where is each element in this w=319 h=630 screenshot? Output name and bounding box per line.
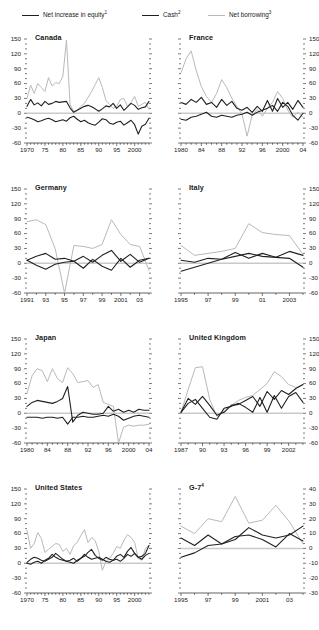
y-axis-label: 90 [309, 216, 319, 222]
x-axis-label: 1987 [170, 447, 192, 453]
x-axis-label: 2003 [278, 297, 300, 303]
y-axis-label: -30 [309, 425, 319, 431]
y-axis-label: 120 [0, 201, 21, 207]
y-axis-label: 30 [309, 245, 319, 251]
legend-footnote-marker: 3 [269, 10, 272, 15]
series-line-cash [27, 258, 149, 270]
x-axis-label: 2000 [272, 147, 294, 153]
y-axis-label: 60 [0, 530, 21, 536]
series-line-net-borrowing [181, 367, 303, 417]
chart-panel-italy: Italy-60-30030609012015019959799012003 [160, 183, 319, 323]
y-axis-label: 120 [309, 351, 319, 357]
y-axis-label: 150 [309, 186, 319, 192]
y-axis-label: 150 [0, 36, 21, 42]
series-line-net-increase-in-equity [27, 250, 149, 262]
y-axis-label: 30 [309, 501, 319, 507]
y-axis-label: 20 [309, 516, 319, 522]
x-axis-label: 04 [292, 147, 314, 153]
x-axis-label: 01 [251, 297, 273, 303]
legend-footnote-marker: 1 [104, 10, 107, 15]
x-axis-label: 93 [213, 447, 235, 453]
chart-panel-g-7: G-74-30-20-1001020304019959799200103 [160, 483, 319, 623]
y-axis-label: -60 [0, 440, 21, 446]
x-axis-label: 2002 [278, 447, 300, 453]
series-line-cash [181, 534, 303, 558]
legend-label: Net borrowing [229, 11, 269, 18]
plot-area [27, 189, 149, 293]
x-axis-label: 1980 [170, 147, 192, 153]
y-axis-label: 60 [309, 80, 319, 86]
x-axis-label: 84 [36, 447, 58, 453]
x-axis-label: 97 [197, 297, 219, 303]
legend-swatch-icon [208, 15, 225, 16]
y-axis-label: -30 [0, 275, 21, 281]
x-axis-label: 99 [256, 447, 278, 453]
x-axis-label: 96 [97, 447, 119, 453]
x-axis-label: 03 [278, 597, 300, 603]
x-axis-label: 88 [211, 147, 233, 153]
series-line-net-increase-in-equity [181, 97, 303, 112]
series-line-cash [27, 116, 149, 134]
y-axis-label: 150 [0, 336, 21, 342]
plot-area [181, 339, 303, 443]
series-line-cash [181, 392, 303, 419]
y-axis-label: 90 [0, 66, 21, 72]
y-axis-label: 0 [309, 410, 319, 416]
y-axis-label: -30 [0, 125, 21, 131]
y-axis-label: 0 [309, 260, 319, 266]
series-line-net-borrowing [181, 51, 303, 136]
y-axis-label: 150 [309, 336, 319, 342]
y-axis-label: -60 [0, 290, 21, 296]
legend-swatch-icon [142, 15, 159, 16]
y-axis-label: -60 [309, 290, 319, 296]
y-axis-label: 60 [309, 380, 319, 386]
series-line-net-borrowing [27, 220, 149, 293]
y-axis-label: 90 [0, 216, 21, 222]
y-axis-label: 30 [0, 545, 21, 551]
y-axis-label: 60 [0, 380, 21, 386]
y-axis-label: 30 [0, 245, 21, 251]
y-axis-label: 10 [309, 530, 319, 536]
plot-area [181, 39, 303, 143]
x-axis-label: 2000 [124, 147, 146, 153]
y-axis-label: 40 [309, 486, 319, 492]
x-axis-label: 1995 [170, 597, 192, 603]
x-axis-label: 92 [77, 447, 99, 453]
series-line-net-borrowing [27, 368, 149, 443]
series-line-net-borrowing [181, 496, 303, 544]
legend-swatch-icon [22, 15, 39, 16]
y-axis-label: 0 [309, 110, 319, 116]
y-axis-label: 150 [0, 186, 21, 192]
plot-area [27, 489, 149, 593]
y-axis-label: 120 [0, 501, 21, 507]
series-line-net-borrowing [181, 224, 303, 256]
chart-panel-germany: Germany-60-30030609012015019919395979920… [0, 183, 160, 323]
chart-figure: Net increase in equity1 Cash2 Net borrow… [0, 0, 319, 630]
y-axis-label: -60 [0, 590, 21, 596]
y-axis-label: -30 [0, 425, 21, 431]
series-line-net-increase-in-equity [27, 99, 149, 112]
y-axis-label: 90 [0, 516, 21, 522]
panel-title-footnote-marker: 4 [201, 483, 204, 488]
chart-panel-canada: Canada-60-300306090120150197075808590952… [0, 33, 160, 173]
x-axis-label: 1980 [16, 447, 38, 453]
y-axis-label: 30 [0, 95, 21, 101]
chart-panel-united-kingdom: United Kingdom-60-3003060901201501987909… [160, 333, 319, 473]
plot-area [181, 489, 303, 593]
series-line-net-borrowing [27, 40, 149, 111]
plot-area [27, 339, 149, 443]
y-axis-label: -60 [309, 440, 319, 446]
legend-footnote-marker: 2 [178, 10, 181, 15]
y-axis-label: 150 [309, 36, 319, 42]
x-axis-label: 03 [129, 297, 151, 303]
y-axis-label: 120 [0, 351, 21, 357]
series-line-net-borrowing [27, 530, 149, 571]
x-axis-label: 96 [251, 147, 273, 153]
y-axis-label: 60 [309, 230, 319, 236]
legend-item-cash: Cash2 [142, 6, 180, 24]
y-axis-label: -10 [309, 560, 319, 566]
chart-panel-united-states: United States-60-30030609012015019707580… [0, 483, 160, 623]
y-axis-label: 120 [309, 201, 319, 207]
y-axis-label: 90 [309, 366, 319, 372]
series-line-net-increase-in-equity [181, 251, 303, 262]
